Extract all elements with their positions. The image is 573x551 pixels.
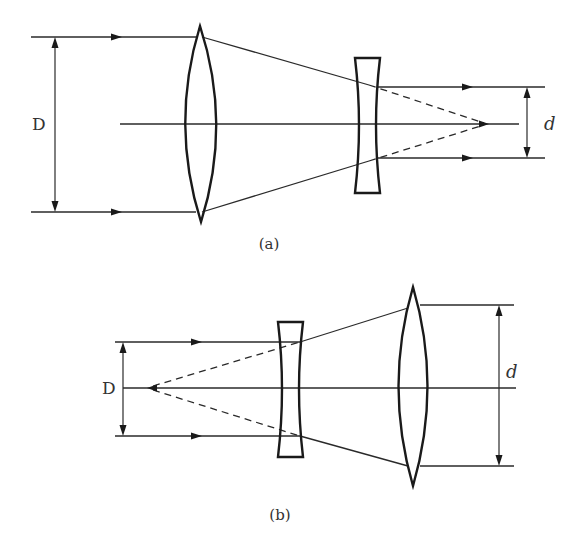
dimension-arrow-down-icon xyxy=(52,201,59,212)
label-d-b: d xyxy=(506,361,518,382)
optical-diagram: D d (a) D xyxy=(0,0,573,551)
diverging-ray-bottom-b xyxy=(300,436,408,466)
dimension-arrow-up-icon xyxy=(496,305,503,316)
virtual-ray-top-a xyxy=(369,85,484,123)
focal-point-arrow-icon xyxy=(147,385,157,392)
virtual-ray-top-b xyxy=(153,342,300,386)
virtual-ray-bottom-b xyxy=(153,390,300,436)
diagram-b: D d (b) xyxy=(102,287,518,524)
caption-a: (a) xyxy=(259,235,280,253)
diagram-a: D d (a) xyxy=(31,26,556,253)
label-D-b: D xyxy=(102,378,116,398)
converging-ray-top-a xyxy=(202,37,369,85)
ray-arrow-icon xyxy=(191,339,202,346)
ray-arrow-icon xyxy=(462,84,473,91)
label-D-a: D xyxy=(32,114,46,134)
ray-arrow-icon xyxy=(462,155,473,162)
dimension-arrow-down-icon xyxy=(524,147,531,158)
dimension-arrow-down-icon xyxy=(120,425,127,436)
caption-b: (b) xyxy=(269,506,290,524)
ray-arrow-icon xyxy=(191,433,202,440)
concave-lens-a xyxy=(355,58,380,193)
converging-ray-bottom-a xyxy=(202,161,369,212)
ray-arrow-icon xyxy=(111,34,122,41)
dimension-arrow-up-icon xyxy=(120,342,127,353)
focal-point-arrow-icon xyxy=(479,121,489,128)
virtual-ray-bottom-a xyxy=(369,125,484,161)
ray-arrow-icon xyxy=(111,209,122,216)
dimension-arrow-up-icon xyxy=(52,37,59,48)
diverging-ray-top-b xyxy=(300,308,408,342)
dimension-arrow-up-icon xyxy=(524,87,531,98)
label-d-a: d xyxy=(544,113,556,134)
convex-lens-b xyxy=(399,287,428,486)
dimension-arrow-down-icon xyxy=(496,455,503,466)
